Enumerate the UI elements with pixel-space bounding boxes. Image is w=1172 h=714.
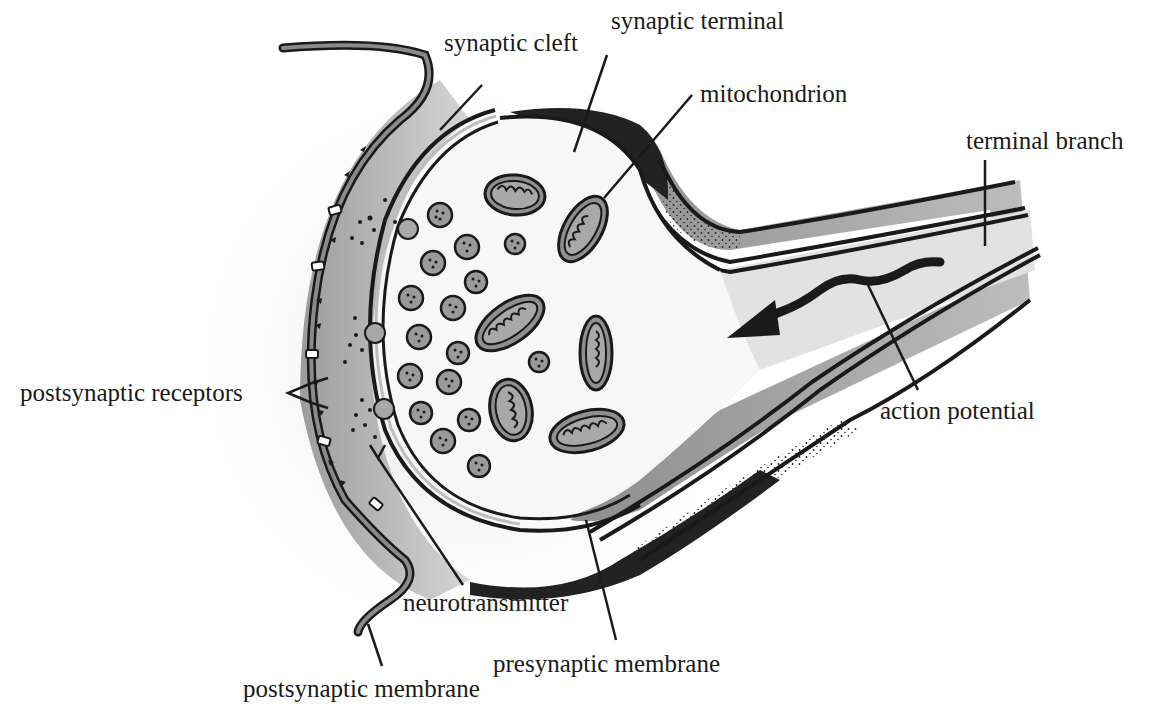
label-action-potential: action potential bbox=[880, 398, 1035, 423]
label-postsynaptic-receptors: postsynaptic receptors bbox=[20, 380, 243, 405]
synapse-diagram: synaptic cleft synaptic terminal mitocho… bbox=[0, 0, 1172, 714]
label-synaptic-terminal: synaptic terminal bbox=[611, 8, 784, 33]
synapse-illustration bbox=[0, 0, 1172, 714]
label-terminal-branch: terminal branch bbox=[966, 128, 1124, 153]
label-neurotransmitter: neurotransmitter bbox=[403, 590, 568, 615]
label-mitochondrion: mitochondrion bbox=[700, 81, 847, 106]
label-presynaptic-membrane: presynaptic membrane bbox=[493, 651, 720, 676]
label-synaptic-cleft: synaptic cleft bbox=[444, 30, 578, 55]
label-postsynaptic-membrane: postsynaptic membrane bbox=[243, 676, 480, 701]
mitochondrion-4 bbox=[580, 316, 612, 390]
